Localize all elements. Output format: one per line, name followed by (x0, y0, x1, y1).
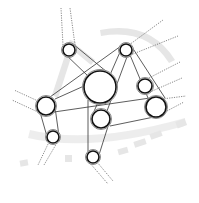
pulley-inner-ring (92, 110, 110, 128)
pulley-d (137, 78, 154, 95)
pulley-e (145, 96, 168, 119)
pulley-a (62, 43, 77, 58)
pulley-f (36, 96, 57, 117)
pulley-inner-ring (138, 79, 152, 93)
pulley-c (119, 43, 134, 58)
dashed-line (70, 8, 75, 45)
dashed-line (89, 162, 108, 184)
pulley-inner-ring (47, 131, 59, 143)
dashed-line (162, 96, 186, 99)
dashed-line (150, 78, 182, 92)
dashed-line (97, 162, 113, 181)
pulley-i (86, 150, 101, 165)
dashed-line (147, 62, 180, 79)
pulley-diagram (0, 0, 199, 203)
pulley-inner-ring (37, 97, 55, 115)
pulley-inner-ring (84, 71, 116, 103)
pulley-inner-ring (120, 44, 132, 56)
dashed-line (14, 90, 38, 101)
pulley-inner-ring (63, 44, 75, 56)
pulley-inner-ring (87, 151, 99, 163)
pulley-inner-ring (146, 97, 166, 117)
pulley-b (83, 70, 118, 105)
pulley-g (46, 130, 61, 145)
belt-line (110, 117, 154, 126)
dashed-line (38, 142, 49, 165)
diagram-canvas (0, 0, 199, 203)
pulley-h (91, 109, 112, 130)
dashed-line (61, 8, 63, 45)
